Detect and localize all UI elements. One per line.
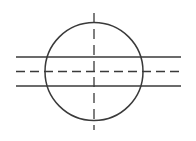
drawing-svg xyxy=(0,0,196,141)
technical-drawing-canvas xyxy=(0,0,196,141)
